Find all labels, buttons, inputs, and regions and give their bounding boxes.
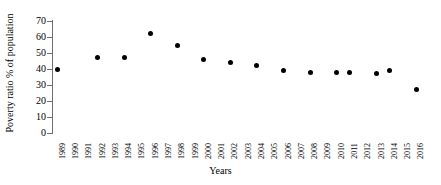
x-axis-tick-label: 1992 (93, 135, 103, 169)
x-axis-tick-labels: 1989199019911992199319941995199619971998… (52, 135, 424, 169)
data-point (414, 87, 419, 92)
x-axis-tick-label: 2007 (292, 135, 302, 169)
y-axis-tick (47, 133, 52, 134)
x-axis-tick-label: 2009 (318, 135, 328, 169)
x-axis-tick-label: 2016 (411, 135, 421, 169)
x-axis-tick-label: 2005 (265, 135, 275, 169)
y-axis-tick-label: 30 (36, 80, 46, 90)
x-axis-tick-label: 2006 (279, 135, 289, 169)
data-point (228, 60, 233, 65)
y-axis-title: Poverty ratio % of population (2, 10, 16, 135)
x-axis-tick-label: 1989 (53, 135, 63, 169)
x-axis-tick-label: 1998 (172, 135, 182, 169)
y-axis-tick-label: 0 (41, 128, 46, 138)
data-point (374, 71, 379, 76)
x-axis-tick-label: 1999 (186, 135, 196, 169)
x-axis-tick-label: 2001 (212, 135, 222, 169)
x-axis-tick-label: 2012 (358, 135, 368, 169)
data-point (387, 68, 392, 73)
x-axis-tick-label: 2000 (199, 135, 209, 169)
y-axis-tick-label: 50 (36, 48, 46, 58)
x-axis-tick-label: 1991 (79, 135, 89, 169)
y-axis-title-text: Poverty ratio % of population (4, 13, 15, 132)
data-point (281, 68, 286, 73)
y-axis-tick-label: 70 (36, 16, 46, 26)
x-axis-tick-label: 2003 (239, 135, 249, 169)
x-axis-tick-label: 2010 (332, 135, 342, 169)
data-point (254, 63, 259, 68)
plot-area (52, 21, 424, 133)
data-point (95, 55, 100, 60)
x-axis-tick-label: 1990 (66, 135, 76, 169)
data-point (55, 67, 60, 72)
x-axis-tick-label: 1997 (159, 135, 169, 169)
x-axis-tick-label: 1995 (132, 135, 142, 169)
y-axis-tick-label: 40 (36, 64, 46, 74)
data-point (175, 43, 180, 48)
y-axis-tick-label: 60 (36, 32, 46, 42)
data-point (122, 55, 127, 60)
data-point (148, 31, 153, 36)
x-axis-title: Years (0, 165, 441, 176)
data-point (201, 57, 206, 62)
x-axis-tick-label: 1996 (146, 135, 156, 169)
x-axis-tick-label: 2011 (345, 135, 355, 169)
x-axis-tick-label: 2015 (398, 135, 408, 169)
data-point (347, 70, 352, 75)
x-axis-tick-label: 1993 (106, 135, 116, 169)
poverty-ratio-scatter-chart: Poverty ratio % of population 0102030405… (0, 0, 441, 185)
y-axis-tick-labels: 010203040506070 (18, 0, 46, 160)
data-point (334, 70, 339, 75)
x-axis-tick-label: 2002 (225, 135, 235, 169)
data-point (308, 70, 313, 75)
x-axis-tick-label: 2013 (372, 135, 382, 169)
x-axis-tick-label: 1994 (119, 135, 129, 169)
x-axis-tick-label: 2008 (305, 135, 315, 169)
y-axis-tick-label: 20 (36, 96, 46, 106)
x-axis-tick-label: 2014 (385, 135, 395, 169)
y-axis-tick-label: 10 (36, 112, 46, 122)
x-axis-tick-label: 2004 (252, 135, 262, 169)
